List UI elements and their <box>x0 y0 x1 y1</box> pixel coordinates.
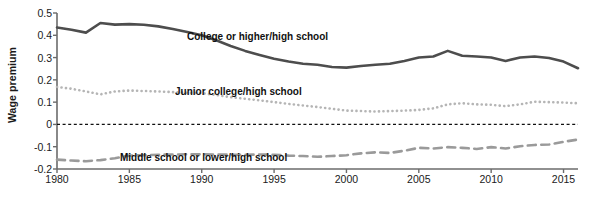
series-label-0: College or higher/high school <box>187 31 328 42</box>
wage-premium-chart: Wage premium 0.50.40.30.20.10-0.1-0.2 19… <box>0 0 589 199</box>
series-line-1 <box>57 87 578 112</box>
series-line-0 <box>57 23 578 68</box>
plot-area <box>0 0 589 199</box>
series-label-2: Middle school or lower/high school <box>120 152 287 163</box>
series-label-1: Junior college/high school <box>175 86 302 97</box>
